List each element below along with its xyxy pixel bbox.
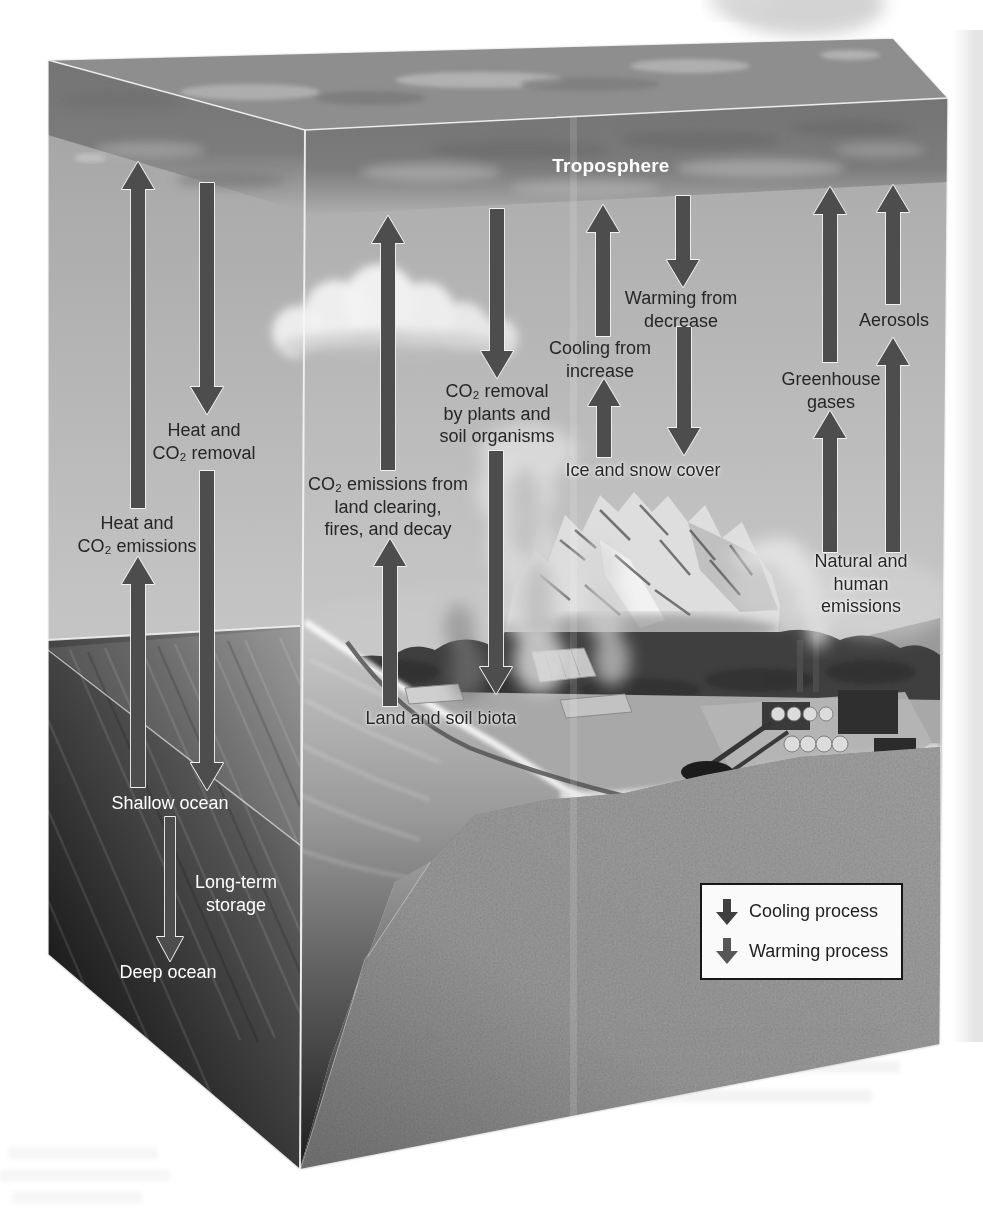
label-land-co2-emissions: CO₂ emissions from land clearing, fires,… (308, 473, 468, 541)
legend: Cooling process Warming process (700, 883, 903, 980)
scan-stripe (570, 100, 577, 1200)
label-ice-and-snow-cover: Ice and snow cover (565, 459, 720, 482)
label-cooling-from-increase: Cooling from increase (549, 337, 651, 382)
label-natural-and-human-emissions: Natural and human emissions (800, 550, 922, 618)
label-heat-co2-emissions: Heat and CO₂ emissions (77, 512, 196, 557)
legend-item-cooling: Cooling process (716, 899, 901, 925)
legend-label-cooling: Cooling process (749, 901, 878, 922)
climate-system-figure: Troposphere Heat and CO₂ removal Heat an… (0, 0, 983, 1213)
cloud-wisp (74, 153, 106, 163)
label-warming-from-decrease: Warming from decrease (625, 287, 737, 332)
label-heat-co2-removal: Heat and CO₂ removal (152, 419, 255, 464)
label-aerosols: Aerosols (859, 309, 929, 332)
label-long-term-storage: Long-term storage (195, 871, 277, 916)
page-edge-shading (953, 30, 983, 1042)
warming-process-arrow-icon (716, 938, 738, 964)
print-bleed-artifact (0, 1170, 170, 1181)
print-bleed-artifact (8, 1148, 158, 1159)
print-bleed-artifact (622, 1090, 872, 1102)
legend-label-warming: Warming process (749, 941, 888, 962)
label-deep-ocean: Deep ocean (119, 961, 216, 984)
print-bleed-artifact (600, 1061, 900, 1073)
smokestack (797, 640, 803, 692)
page-top-cloud (708, 0, 885, 36)
legend-item-warming: Warming process (716, 938, 901, 964)
label-greenhouse-gases: Greenhouse gases (781, 368, 880, 413)
label-land-and-soil-biota: Land and soil biota (365, 707, 516, 730)
label-shallow-ocean: Shallow ocean (111, 792, 228, 815)
print-bleed-artifact (12, 1192, 142, 1203)
label-plants-co2-removal: CO₂ removal by plants and soil organisms (439, 380, 554, 448)
cooling-process-arrow-icon (716, 899, 738, 925)
print-bleed-artifact (618, 1032, 878, 1044)
label-troposphere: Troposphere (552, 154, 669, 178)
